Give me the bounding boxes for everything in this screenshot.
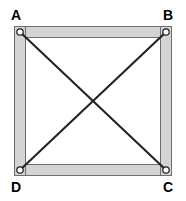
corner-label-b: B [163, 8, 173, 22]
frame-member-right [161, 27, 172, 176]
frame-member-top [15, 27, 172, 38]
diagram-canvas: A B C D [0, 0, 186, 201]
corner-label-a: A [11, 8, 21, 22]
frame-member-left [15, 27, 26, 176]
joint-circle-b [163, 29, 169, 35]
corner-label-d: D [11, 180, 21, 194]
joint-circle-a [17, 29, 23, 35]
frame-member-bottom [15, 165, 172, 176]
joint-circle-d [17, 167, 23, 173]
frame-diagram-svg [0, 0, 186, 201]
joint-circle-c [163, 167, 169, 173]
corner-label-c: C [163, 180, 173, 194]
